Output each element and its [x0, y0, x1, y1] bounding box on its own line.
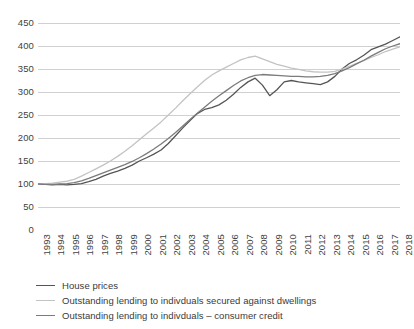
x-tick-label: 2000: [143, 234, 153, 256]
y-tick-label: 50: [0, 202, 34, 212]
legend-label: House prices: [62, 280, 118, 291]
y-tick-label: 100: [0, 179, 34, 189]
x-axis: 1993199419951996199719981999200020012002…: [0, 234, 408, 274]
x-tick-label: 2011: [303, 234, 313, 255]
y-tick-label: 250: [0, 110, 34, 120]
legend-color-swatch: [36, 315, 55, 316]
x-tick-label: 2004: [201, 234, 211, 256]
x-tick-label: 2016: [375, 234, 385, 256]
x-tick-label: 2018: [404, 234, 414, 256]
legend-label: Outstanding lending to indivduals secure…: [62, 295, 316, 306]
x-tick-label: 2006: [230, 234, 240, 256]
chart-legend: House pricesOutstanding lending to indiv…: [36, 278, 408, 323]
x-tick-label: 2007: [245, 234, 255, 256]
x-tick-label: 2014: [346, 234, 356, 256]
legend-item[interactable]: Outstanding lending to indivduals – cons…: [36, 308, 408, 323]
x-tick-label: 1994: [56, 234, 66, 256]
y-tick-label: 150: [0, 156, 34, 166]
plot-area: [38, 23, 400, 230]
x-tick-label: 2010: [288, 234, 298, 256]
x-tick-label: 2003: [187, 234, 197, 256]
x-tick-label: 1999: [129, 234, 139, 256]
x-tick-label: 1995: [71, 234, 81, 256]
y-tick-label: 350: [0, 64, 34, 74]
y-tick-label: 450: [0, 18, 34, 28]
legend-item[interactable]: House prices: [36, 278, 408, 293]
y-axis: 050100150200250300350400450: [0, 0, 34, 329]
series-line-2: [38, 44, 400, 185]
x-tick-label: 2005: [216, 234, 226, 256]
x-tick-label: 1997: [100, 234, 110, 256]
plot-svg: [38, 23, 400, 230]
legend-color-swatch: [36, 285, 55, 286]
x-tick-label: 2002: [172, 234, 182, 256]
x-tick-label: 2008: [259, 234, 269, 256]
x-tick-label: 1998: [114, 234, 124, 256]
y-tick-label: 400: [0, 41, 34, 51]
x-tick-label: 2013: [332, 234, 342, 256]
legend-label: Outstanding lending to indivduals – cons…: [62, 310, 283, 321]
series-line-0: [38, 37, 400, 185]
x-tick-label: 2015: [361, 234, 371, 256]
x-tick-label: 2017: [390, 234, 400, 256]
x-tick-label: 2012: [317, 234, 327, 256]
legend-item[interactable]: Outstanding lending to indivduals secure…: [36, 293, 408, 308]
x-tick-label: 1993: [42, 234, 52, 256]
x-tick-label: 2001: [158, 234, 168, 256]
x-tick-label: 2009: [274, 234, 284, 256]
y-tick-label: 200: [0, 133, 34, 143]
legend-color-swatch: [36, 300, 55, 301]
x-tick-label: 1996: [85, 234, 95, 256]
y-tick-label: 300: [0, 87, 34, 97]
